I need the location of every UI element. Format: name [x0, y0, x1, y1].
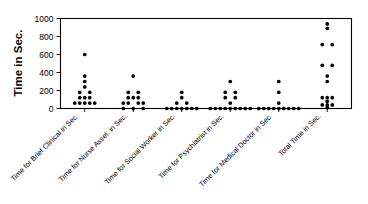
data-point	[126, 90, 130, 94]
data-point	[325, 74, 329, 78]
data-point	[325, 27, 329, 31]
data-point	[141, 107, 145, 111]
data-point	[88, 96, 92, 100]
data-point	[320, 103, 324, 107]
data-point	[277, 80, 281, 84]
y-axis-ticks: 02004006008001000	[35, 14, 61, 114]
y-tick-label: 200	[39, 86, 53, 96]
data-point	[228, 101, 232, 105]
y-tick-label: 600	[39, 50, 53, 60]
data-point	[136, 101, 140, 105]
y-tick-label: 400	[39, 68, 53, 78]
data-point	[88, 101, 92, 105]
data-point	[228, 80, 232, 84]
data-point	[141, 101, 145, 105]
data-point	[320, 63, 324, 67]
data-point	[88, 90, 92, 94]
data-point	[126, 96, 130, 100]
dot-plot-figure: Time in Sec. 02004006008001000 Time for …	[0, 0, 368, 204]
data-point	[262, 107, 266, 111]
data-point	[175, 101, 179, 105]
data-point	[121, 107, 125, 111]
data-point	[233, 107, 237, 111]
data-point	[325, 22, 329, 26]
data-point	[223, 107, 227, 111]
data-point	[190, 107, 194, 111]
data-point	[248, 107, 252, 111]
data-point	[223, 96, 227, 100]
data-point	[165, 107, 169, 111]
data-point	[131, 96, 135, 100]
chart-canvas: Time in Sec. 02004006008001000 Time for …	[0, 0, 368, 204]
data-point	[185, 107, 189, 111]
data-point	[320, 96, 324, 100]
data-point	[267, 107, 271, 111]
y-tick-label: 1000	[35, 14, 54, 24]
plot-frame	[61, 19, 352, 109]
y-axis-title-group: Time in Sec.	[12, 30, 24, 97]
data-point	[330, 63, 334, 67]
data-point	[83, 101, 87, 105]
data-point	[330, 103, 334, 107]
data-point	[93, 101, 97, 105]
data-point	[83, 80, 87, 84]
data-point	[180, 90, 184, 94]
data-point	[83, 96, 87, 100]
data-point	[238, 107, 242, 111]
data-point	[136, 90, 140, 94]
data-point	[83, 53, 87, 57]
data-point	[208, 107, 212, 111]
data-point	[243, 107, 247, 111]
data-point	[218, 107, 222, 111]
data-point	[287, 107, 291, 111]
data-point	[233, 90, 237, 94]
data-point	[325, 99, 329, 103]
x-axis-label-5: Total Time in Sec.	[276, 112, 322, 158]
data-point	[292, 107, 296, 111]
data-point	[320, 43, 324, 47]
data-point	[185, 101, 189, 105]
data-point	[330, 96, 334, 100]
data-point	[213, 107, 217, 111]
data-point	[73, 101, 77, 105]
data-point	[175, 107, 179, 111]
data-point	[180, 96, 184, 100]
data-point	[126, 101, 130, 105]
data-point	[325, 96, 329, 100]
data-point	[136, 96, 140, 100]
data-point	[121, 101, 125, 105]
data-points-group	[73, 22, 334, 110]
data-point	[223, 90, 227, 94]
data-point	[78, 96, 82, 100]
data-point	[83, 85, 87, 89]
data-point	[257, 107, 261, 111]
data-point	[297, 107, 301, 111]
data-point	[78, 90, 82, 94]
y-tick-label: 0	[49, 104, 54, 114]
data-point	[233, 96, 237, 100]
data-point	[272, 107, 276, 111]
y-axis-title: Time in Sec.	[12, 30, 24, 97]
data-point	[325, 80, 329, 84]
data-point	[277, 101, 281, 105]
data-point	[330, 43, 334, 47]
data-point	[131, 74, 135, 78]
x-axis-category-labels: Time for Brief Clinical in Sec.Time for …	[9, 112, 323, 189]
data-point	[170, 107, 174, 111]
data-point	[83, 74, 87, 78]
data-point	[282, 107, 286, 111]
y-tick-label: 800	[39, 32, 53, 42]
data-point	[78, 101, 82, 105]
data-point	[195, 107, 199, 111]
data-point	[277, 90, 281, 94]
